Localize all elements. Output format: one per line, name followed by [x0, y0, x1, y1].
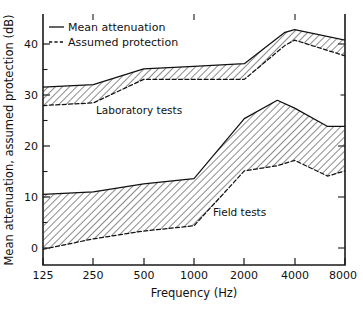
x-tick-label: 2000 [230, 269, 258, 282]
y-tick-label: 0 [31, 242, 38, 255]
chart-figure: 40 30 20 10 0 125 250 500 1000 2000 4000… [0, 0, 363, 312]
x-axis-title: Frequency (Hz) [151, 286, 238, 300]
x-tick-label: 250 [83, 269, 104, 282]
y-tick-label: 20 [24, 140, 38, 153]
y-tick-label: 30 [24, 89, 38, 102]
legend-label-mean: Mean attenuation [68, 21, 165, 34]
x-tick-label: 8000 [329, 269, 357, 282]
x-tick-label: 125 [33, 269, 54, 282]
y-tick-label: 10 [24, 191, 38, 204]
annotation-field-tests: Field tests [213, 206, 266, 218]
y-axis-title: Mean attenuation, assumed protection (dB… [2, 14, 16, 265]
x-tick-label: 1000 [180, 269, 208, 282]
y-tick-label: 40 [24, 38, 38, 51]
annotation-laboratory-tests: Laboratory tests [96, 104, 182, 116]
x-tick-label: 500 [134, 269, 155, 282]
x-tick-label: 4000 [281, 269, 309, 282]
legend-label-assumed: Assumed protection [68, 36, 178, 49]
chart-svg: 40 30 20 10 0 125 250 500 1000 2000 4000… [0, 0, 363, 312]
